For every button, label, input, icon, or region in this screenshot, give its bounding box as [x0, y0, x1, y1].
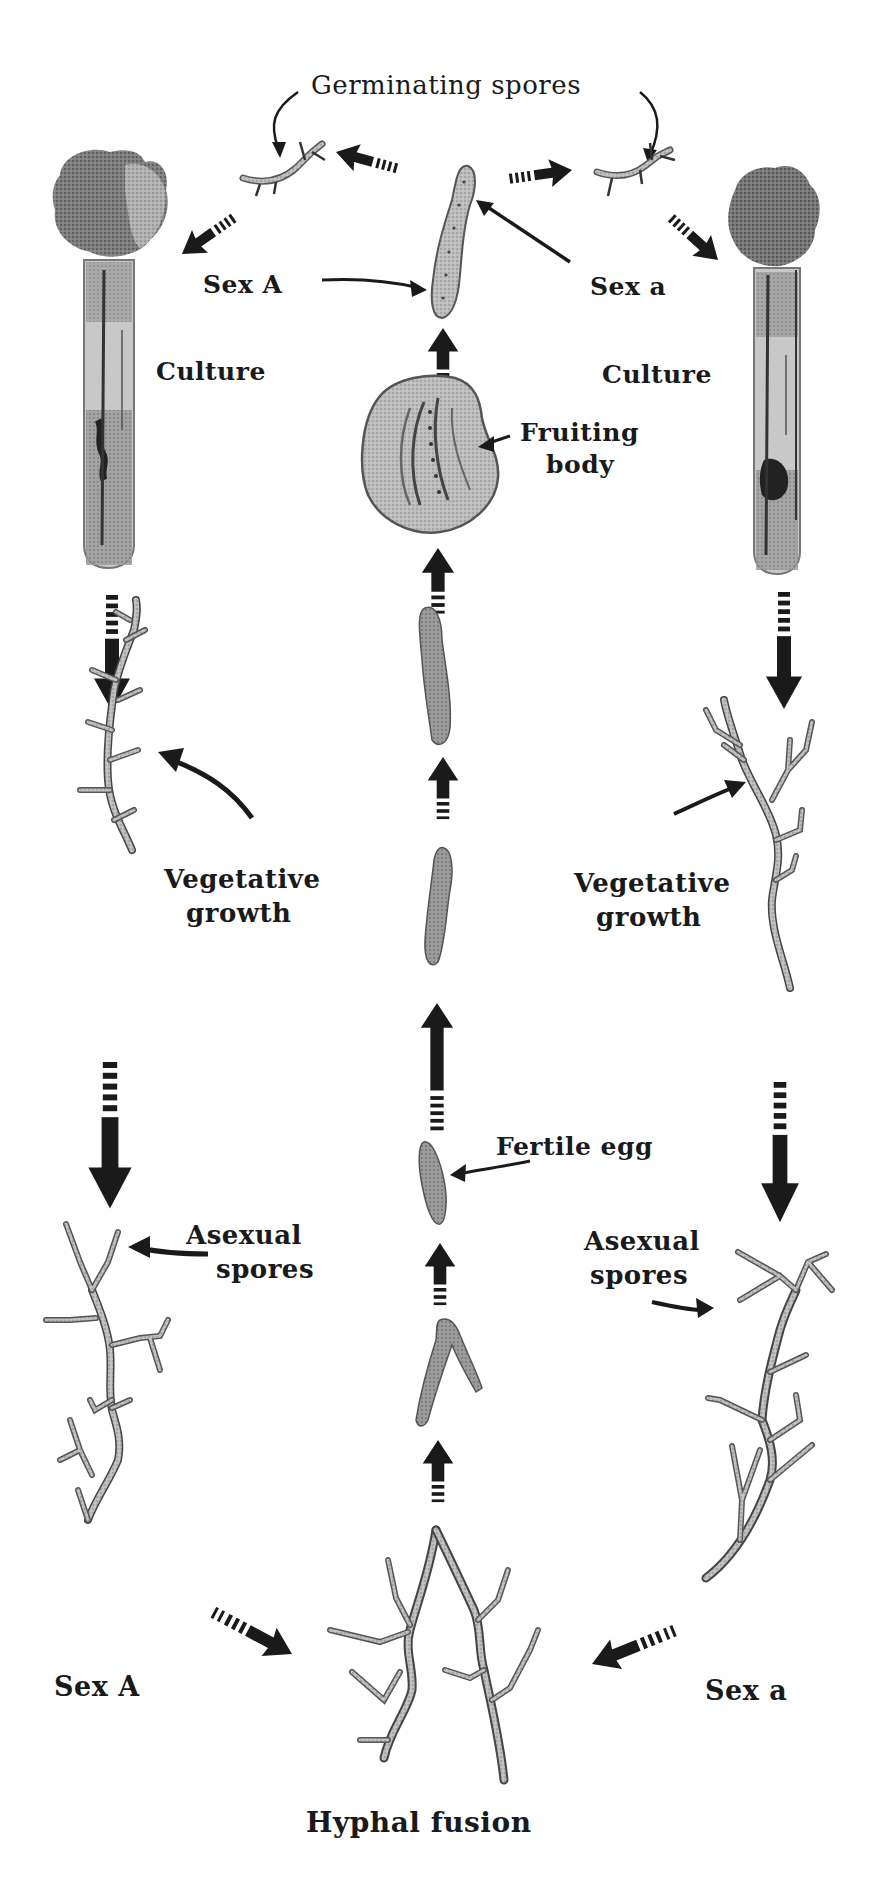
- label-culture-left: Culture: [156, 357, 266, 387]
- label-sex-A-top: Sex A: [203, 270, 282, 300]
- label-vegetative-right-line1: Vegetative: [574, 868, 730, 898]
- culture-tube-right: [728, 166, 820, 574]
- germinating-spore-left: [243, 142, 325, 196]
- diagram-artwork: [0, 0, 884, 1887]
- label-vegetative-right-line2: growth: [596, 902, 702, 932]
- label-fruiting-body-line2: body: [546, 450, 614, 480]
- vegetative-hypha-right: [706, 700, 812, 988]
- label-vegetative-left-line2: growth: [186, 898, 292, 928]
- germinating-spore-right: [597, 143, 675, 196]
- hyphal-fusion-illustration: [330, 1530, 538, 1780]
- fruiting-body-illustration: [362, 376, 498, 533]
- label-sex-a-bottom: Sex a: [705, 1676, 787, 1706]
- label-fertile-egg: Fertile egg: [496, 1132, 653, 1162]
- label-sex-a-top: Sex a: [590, 272, 666, 302]
- ascus-spores: [432, 166, 475, 318]
- life-cycle-diagram: Germinating spores Sex A Sex a Culture C…: [0, 0, 884, 1887]
- fertile-egg-illustration: [419, 1142, 446, 1224]
- label-sex-A-bottom: Sex A: [54, 1672, 140, 1702]
- fused-hyphae-zygote: [416, 1319, 482, 1426]
- vegetative-hypha-left: [80, 600, 145, 850]
- label-fruiting-body-line1: Fruiting: [520, 418, 639, 448]
- label-asexual-left-line2: spores: [216, 1254, 314, 1284]
- label-asexual-right-line1: Asexual: [584, 1226, 700, 1256]
- label-germinating-spores: Germinating spores: [311, 70, 581, 100]
- germinating-pointer-arrows: [274, 92, 658, 155]
- asexual-hypha-right: [706, 1252, 832, 1578]
- label-hyphal-fusion: Hyphal fusion: [306, 1808, 532, 1838]
- developing-cell-2: [425, 848, 452, 965]
- culture-tube-left: [53, 150, 168, 568]
- asexual-hypha-left: [46, 1224, 168, 1520]
- developing-cell-1: [419, 607, 450, 744]
- label-vegetative-left-line1: Vegetative: [164, 864, 320, 894]
- label-asexual-left-line1: Asexual: [186, 1220, 302, 1250]
- label-culture-right: Culture: [602, 360, 712, 390]
- label-asexual-right-line2: spores: [590, 1260, 688, 1290]
